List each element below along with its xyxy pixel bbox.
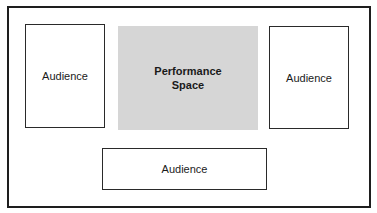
audience-right-label: Audience xyxy=(286,72,332,84)
audience-left-area: Audience xyxy=(25,24,105,128)
performance-space-label-line2: Space xyxy=(172,79,204,91)
audience-right-area: Audience xyxy=(269,26,349,129)
audience-bottom-area: Audience xyxy=(102,148,267,190)
audience-left-label: Audience xyxy=(42,70,88,82)
performance-space-label: Performance Space xyxy=(154,64,221,92)
performance-space-area: Performance Space xyxy=(118,26,258,130)
performance-space-label-line1: Performance xyxy=(154,65,221,77)
audience-bottom-label: Audience xyxy=(162,163,208,175)
